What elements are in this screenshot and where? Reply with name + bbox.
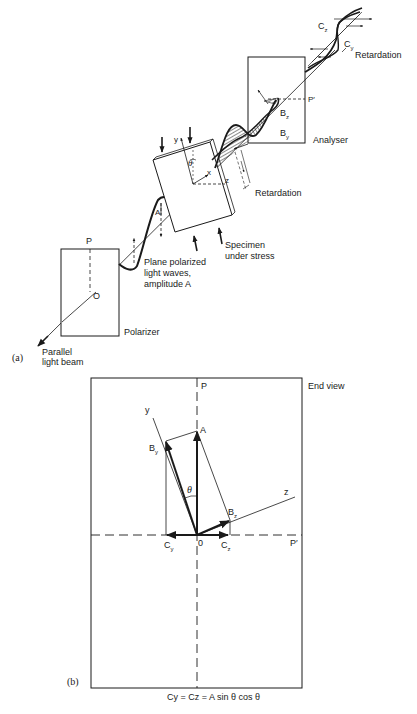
retarded-wave-z	[212, 98, 279, 160]
Cz-subscript: z	[325, 27, 328, 33]
Cy-subscript: y	[351, 45, 354, 51]
By-subscript: y	[286, 134, 289, 140]
Bz-subscript: z	[286, 114, 289, 120]
label-P-prime-end-view: P′	[290, 538, 298, 548]
label-x-specimen: x	[207, 168, 211, 178]
Cz-subscript: z	[228, 546, 231, 552]
label-parallel-light-beam: Parallel light beam	[42, 347, 84, 367]
vector-Bz	[197, 521, 229, 535]
label-analyser: Analyser	[313, 135, 348, 145]
label-y-axis: y	[145, 405, 150, 415]
label-origin-0: 0	[198, 538, 203, 548]
label-retardation-mid: Retardation	[255, 188, 302, 198]
label-retardation-top: Retardation	[355, 50, 402, 60]
label-P-polarizer: P	[86, 236, 92, 246]
label-z-specimen: z	[225, 176, 229, 186]
part-a-optical-setup	[38, 8, 372, 346]
label-Cy-end-view: Cy	[164, 540, 174, 554]
label-plane-polarized-waves: Plane polarized light waves, amplitude A	[144, 257, 206, 290]
vector-By	[166, 442, 197, 535]
theta-arc	[185, 496, 197, 498]
label-Cz-end-view: Cz	[221, 540, 231, 554]
label-By-analyser: By	[280, 128, 289, 142]
By-subscript: y	[155, 449, 158, 455]
Cy-subscript: y	[171, 546, 174, 552]
label-amplitude-A-wave: A	[155, 208, 160, 218]
label-By-end-view: By	[149, 443, 158, 457]
Bz-subscript: z	[234, 513, 237, 519]
label-part-b-tag: (b)	[67, 677, 79, 687]
label-P-prime-analyser: P′	[308, 95, 315, 105]
equation-Cy-Cz: Cy = Cz = A sin θ cos θ	[167, 692, 260, 702]
label-Bz-end-view: Bz	[228, 507, 237, 521]
label-A-end-view: A	[200, 425, 206, 435]
label-Cy-top: Cy	[344, 39, 354, 53]
label-theta-specimen: θ	[188, 158, 192, 168]
label-end-view: End view	[308, 381, 345, 391]
label-Cz-top: Cz	[318, 21, 328, 35]
label-specimen-under-stress: Specimen under stress	[225, 240, 275, 262]
polarizer-plate	[61, 249, 119, 336]
label-part-a-tag: (a)	[12, 353, 23, 363]
label-polarizer: Polarizer	[124, 327, 160, 337]
label-Bz-analyser: Bz	[280, 108, 289, 122]
label-theta-end-view: θ	[187, 485, 192, 495]
label-O: O	[93, 291, 100, 301]
label-y-specimen: y	[174, 135, 178, 145]
label-P-end-view: P	[201, 381, 207, 391]
incoming-beam-arrow	[38, 336, 48, 346]
label-z-axis: z	[284, 487, 289, 497]
part-b-end-view	[91, 378, 302, 688]
